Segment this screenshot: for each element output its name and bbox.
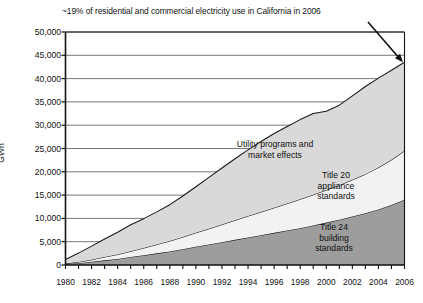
x-tick-1994: 1994 (239, 277, 258, 287)
y-tick-5000: 5,000 (39, 237, 61, 247)
stacked-area-chart: ~19% of residential and commercial elect… (0, 0, 423, 303)
x-tick-1988: 1988 (160, 277, 179, 287)
y-tick-45000: 45,000 (35, 50, 61, 60)
x-tick-1998: 1998 (291, 277, 310, 287)
series-label-title20-line3: standards (317, 191, 355, 201)
y-tick-50000: 50,000 (35, 27, 61, 37)
series-label-utility-line2: market effects (248, 150, 302, 160)
x-tick-1996: 1996 (265, 277, 284, 287)
x-tick-1984: 1984 (108, 277, 127, 287)
y-axis-tick-labels: 50,000 45,000 40,000 35,000 30,000 25,00… (8, 0, 61, 303)
series-label-utility-line1: Utility programs and (237, 139, 313, 149)
y-tick-25000: 25,000 (35, 144, 61, 154)
y-tick-20000: 20,000 (35, 167, 61, 177)
x-tick-1982: 1982 (82, 277, 101, 287)
y-tick-15000: 15,000 (35, 190, 61, 200)
series-label-utility-programs: Utility programs and market effects (200, 139, 350, 160)
series-label-title24-line1: Title 24 (320, 222, 348, 232)
x-tick-2000: 2000 (317, 277, 336, 287)
annotation-arrow (368, 22, 403, 62)
series-label-title20: Title 20 appliance standards (290, 170, 382, 202)
x-tick-1986: 1986 (134, 277, 153, 287)
y-axis-label: GWh (0, 143, 6, 163)
series-label-title24: Title 24 building standards (288, 222, 380, 254)
x-tick-1992: 1992 (213, 277, 232, 287)
x-tick-2002: 2002 (343, 277, 362, 287)
x-tick-2004: 2004 (369, 277, 388, 287)
y-tick-0: 0 (56, 260, 61, 270)
x-tick-1990: 1990 (187, 277, 206, 287)
series-label-title24-line2: building (319, 233, 349, 243)
y-tick-40000: 40,000 (35, 74, 61, 84)
y-tick-10000: 10,000 (35, 213, 61, 223)
series-label-title24-line3: standards (315, 243, 353, 253)
series-label-title20-line2: appliance (318, 181, 355, 191)
x-tick-2006: 2006 (395, 277, 414, 287)
chart-annotation-text: ~19% of residential and commercial elect… (62, 6, 321, 16)
x-tick-1980: 1980 (56, 277, 75, 287)
y-tick-35000: 35,000 (35, 97, 61, 107)
series-label-title20-line1: Title 20 (322, 170, 350, 180)
y-tick-30000: 30,000 (35, 120, 61, 130)
